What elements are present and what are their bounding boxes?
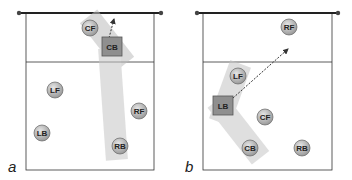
- panel-b: RF LF LB CF CB RB b: [185, 11, 340, 175]
- panel-label-a: a: [8, 158, 16, 175]
- svg-text:CF: CF: [85, 24, 96, 33]
- net-post-left: [195, 11, 199, 15]
- player-cb: CB: [242, 140, 258, 156]
- svg-text:LB: LB: [37, 129, 48, 138]
- volleyball-rotation-diagram: CF CB LF RF LB RB a: [0, 0, 352, 180]
- player-rf: RF: [281, 19, 297, 35]
- svg-text:RF: RF: [284, 23, 295, 32]
- court-boundary: [26, 13, 154, 170]
- svg-text:LF: LF: [233, 72, 243, 81]
- player-lf: LF: [47, 82, 63, 98]
- player-lb-setter: LB: [213, 96, 233, 115]
- player-rf: RF: [131, 103, 147, 119]
- player-rb: RB: [294, 140, 310, 156]
- svg-text:CB: CB: [106, 43, 118, 52]
- svg-text:LB: LB: [218, 102, 229, 111]
- player-cf: CF: [82, 20, 98, 36]
- svg-text:CF: CF: [260, 113, 271, 122]
- net-post-right: [336, 11, 340, 15]
- net-post-left: [17, 11, 21, 15]
- player-lb: LB: [34, 125, 50, 141]
- svg-text:RB: RB: [296, 144, 308, 153]
- player-rb: RB: [112, 138, 128, 154]
- net-post-right: [159, 11, 163, 15]
- svg-text:LF: LF: [50, 86, 60, 95]
- player-cf: CF: [257, 109, 273, 125]
- svg-text:CB: CB: [244, 144, 256, 153]
- player-cb-setter: CB: [102, 37, 122, 56]
- svg-text:RB: RB: [114, 142, 126, 151]
- panel-a: CF CB LF RF LB RB a: [8, 10, 163, 175]
- player-lf: LF: [230, 68, 246, 84]
- svg-text:RF: RF: [134, 107, 145, 116]
- panel-label-b: b: [185, 158, 193, 175]
